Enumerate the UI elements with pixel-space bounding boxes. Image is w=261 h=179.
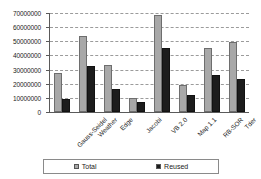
bar-total bbox=[54, 73, 62, 112]
legend-label: Reused bbox=[164, 163, 188, 170]
x-axis-tick-label: Jacobi bbox=[145, 116, 163, 134]
plot-area bbox=[49, 13, 249, 113]
bar-group bbox=[174, 13, 199, 112]
bar-reused bbox=[112, 89, 120, 112]
bar-reused bbox=[87, 66, 95, 112]
bar-total bbox=[229, 42, 237, 112]
y-axis-tick-label: 50000000 bbox=[13, 38, 41, 45]
bar-group bbox=[224, 13, 249, 112]
x-axis-tick-label: RB-SOR bbox=[221, 116, 244, 139]
chart-legend: TotalReused bbox=[43, 159, 219, 174]
bar-total bbox=[154, 15, 162, 112]
y-axis-tick-label: 0 bbox=[37, 109, 41, 116]
x-axis-tick-label: VB 2.0 bbox=[170, 116, 189, 135]
bar-chart: 0100000002000000030000000400000005000000… bbox=[0, 0, 261, 179]
bar-total bbox=[79, 36, 87, 112]
bar-reused bbox=[162, 48, 170, 112]
x-axis-tick-label: Tder bbox=[242, 116, 256, 130]
legend-swatch-icon bbox=[156, 164, 161, 169]
y-axis: 0100000002000000030000000400000005000000… bbox=[0, 0, 46, 179]
y-axis-tick-label: 30000000 bbox=[13, 66, 41, 73]
x-axis-tick-label: Edge bbox=[119, 116, 135, 132]
bar-group bbox=[150, 13, 175, 112]
bar-reused bbox=[212, 75, 220, 112]
y-axis-tick-label: 20000000 bbox=[13, 80, 41, 87]
bar-total bbox=[204, 48, 212, 112]
bar-reused bbox=[137, 102, 145, 112]
x-axis: Gauss-SeidelWeatherEdgeJacobiVB 2.0Map 1… bbox=[49, 113, 248, 159]
y-axis-tick-label: 70000000 bbox=[13, 10, 41, 17]
bar-group bbox=[100, 13, 125, 112]
y-axis-tick-label: 40000000 bbox=[13, 52, 41, 59]
legend-item-reused: Reused bbox=[156, 163, 188, 170]
y-axis-tick-label: 60000000 bbox=[13, 24, 41, 31]
bar-group bbox=[125, 13, 150, 112]
legend-item-total: Total bbox=[74, 163, 97, 170]
bars-layer bbox=[50, 13, 249, 112]
x-axis-tick-label: Map 1.1 bbox=[196, 116, 218, 138]
bar-group bbox=[75, 13, 100, 112]
bar-total bbox=[104, 65, 112, 112]
bar-total bbox=[129, 98, 137, 112]
bar-total bbox=[179, 85, 187, 112]
bar-reused bbox=[237, 79, 245, 112]
bar-reused bbox=[187, 95, 195, 112]
legend-swatch-icon bbox=[74, 164, 79, 169]
bar-reused bbox=[62, 99, 70, 112]
legend-label: Total bbox=[82, 163, 97, 170]
y-axis-tick-label: 10000000 bbox=[13, 94, 41, 101]
bar-group bbox=[199, 13, 224, 112]
bar-group bbox=[50, 13, 75, 112]
